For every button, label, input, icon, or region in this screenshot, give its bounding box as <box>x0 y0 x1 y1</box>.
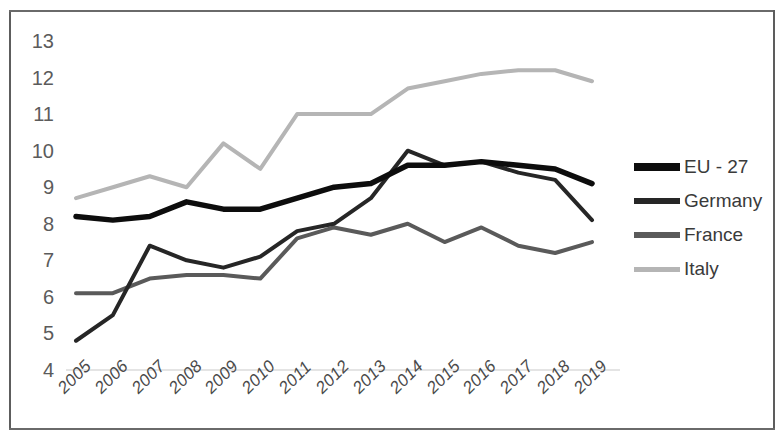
legend-swatch-icon <box>634 232 680 238</box>
series-line-italy <box>76 70 592 198</box>
legend-swatch-icon <box>634 267 680 272</box>
legend-swatch-icon <box>634 163 680 171</box>
series-line-france <box>76 224 592 293</box>
chart-legend: EU - 27GermanyFranceItaly <box>634 150 774 286</box>
legend-item-eu-27[interactable]: EU - 27 <box>634 150 774 184</box>
legend-item-italy[interactable]: Italy <box>634 252 774 286</box>
legend-item-label: France <box>684 224 743 246</box>
legend-item-label: Italy <box>684 258 719 280</box>
legend-swatch-icon <box>634 198 680 204</box>
legend-item-france[interactable]: France <box>634 218 774 252</box>
chart-figure: 13121110987654 2005200620072008200920102… <box>0 0 784 436</box>
legend-item-germany[interactable]: Germany <box>634 184 774 218</box>
legend-item-label: Germany <box>684 190 762 212</box>
legend-item-label: EU - 27 <box>684 156 748 178</box>
